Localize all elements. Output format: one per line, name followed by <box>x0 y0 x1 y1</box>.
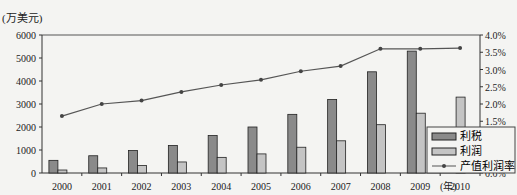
svg-text:2008: 2008 <box>370 181 390 192</box>
svg-text:4000: 4000 <box>16 76 36 87</box>
svg-text:2001: 2001 <box>92 181 112 192</box>
svg-text:3000: 3000 <box>16 99 36 110</box>
svg-text:2.5%: 2.5% <box>485 82 506 93</box>
svg-text:(年): (年) <box>440 180 457 193</box>
svg-text:1000: 1000 <box>16 145 36 156</box>
svg-text:2004: 2004 <box>211 181 231 192</box>
svg-text:0: 0 <box>31 168 36 179</box>
svg-text:3.5%: 3.5% <box>485 47 506 58</box>
svg-text:2005: 2005 <box>251 181 271 192</box>
svg-text:2000: 2000 <box>52 181 72 192</box>
svg-text:2002: 2002 <box>132 181 152 192</box>
svg-text:4.0%: 4.0% <box>485 30 506 41</box>
y-axis-unit: (万美元) <box>2 12 43 25</box>
svg-text:3.0%: 3.0% <box>485 65 506 76</box>
svg-text:5000: 5000 <box>16 53 36 64</box>
svg-text:利税: 利税 <box>460 129 482 142</box>
chart: (万美元)01000200030004000500060000.0%0.5%1.… <box>0 0 517 195</box>
svg-text:6000: 6000 <box>16 30 36 41</box>
svg-text:利润: 利润 <box>460 144 482 157</box>
svg-text:2.0%: 2.0% <box>485 99 506 110</box>
svg-text:2000: 2000 <box>16 122 36 133</box>
svg-text:产值利润率: 产值利润率 <box>460 159 515 172</box>
svg-text:2009: 2009 <box>410 181 430 192</box>
svg-text:2006: 2006 <box>291 181 311 192</box>
svg-text:1.5%: 1.5% <box>485 116 506 127</box>
svg-text:2007: 2007 <box>331 181 351 192</box>
svg-text:2003: 2003 <box>171 181 191 192</box>
